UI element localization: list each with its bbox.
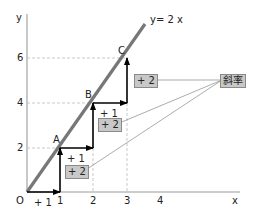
x-tick-1: 1 bbox=[57, 196, 63, 206]
slope-callout: 斜率 bbox=[220, 74, 246, 88]
y-tick-2: 2 bbox=[17, 143, 23, 153]
x-tick-4: 4 bbox=[157, 196, 163, 206]
x-axis-label: x bbox=[232, 196, 238, 206]
origin-label: O bbox=[16, 196, 24, 206]
slope-diagram: y x O 1 2 3 4 2 4 6 y= 2 x A B C + 1 + 1… bbox=[0, 0, 254, 216]
rise-box-1: + 2 bbox=[65, 165, 89, 179]
run-label-1: + 1 bbox=[34, 198, 52, 208]
y-axis-label: y bbox=[16, 13, 22, 23]
y-tick-4: 4 bbox=[17, 98, 23, 108]
point-c-label: C bbox=[118, 46, 125, 56]
line-label: y= 2 x bbox=[150, 15, 183, 25]
x-tick-2: 2 bbox=[90, 196, 96, 206]
rise-box-3: + 2 bbox=[134, 74, 158, 88]
diagram-graphics bbox=[0, 0, 254, 216]
point-a-label: A bbox=[53, 135, 60, 145]
y-tick-6: 6 bbox=[17, 53, 23, 63]
rise-box-2: + 2 bbox=[98, 118, 122, 132]
run-label-2: + 1 bbox=[67, 154, 85, 164]
point-b-label: B bbox=[85, 90, 92, 100]
x-tick-3: 3 bbox=[124, 196, 130, 206]
